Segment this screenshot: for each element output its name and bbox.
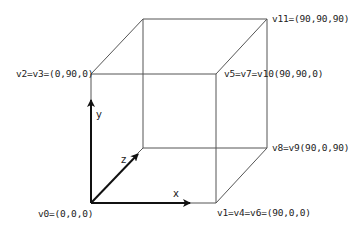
vertex-label-v0: v0=(0,0,0): [38, 209, 93, 219]
cube-diagram: v2=v3=(0,90,0) v11=(90,90,90) v5=v7=v10(…: [0, 0, 362, 229]
edge-depth-bottom-left: [138, 148, 143, 153]
axis-label-y: y: [96, 110, 102, 120]
axis-label-x: x: [173, 189, 179, 199]
z-axis-arrow: [91, 154, 138, 203]
cube-svg: [0, 0, 362, 229]
edge-depth-bottom-right: [216, 148, 267, 203]
vertex-label-v8: v8=v9(90,0,90): [272, 143, 349, 153]
edge-depth-top-right: [216, 19, 267, 74]
vertex-label-v5: v5=v7=v10(90,90,0): [224, 69, 323, 79]
axis-label-z: z: [121, 155, 126, 165]
vertex-label-v2: v2=v3=(0,90,0): [16, 69, 93, 79]
vertex-label-v1: v1=v4=v6=(90,0,0): [217, 208, 311, 218]
edge-depth-top-left: [91, 19, 143, 74]
vertex-label-v11: v11=(90,90,90): [272, 14, 349, 24]
